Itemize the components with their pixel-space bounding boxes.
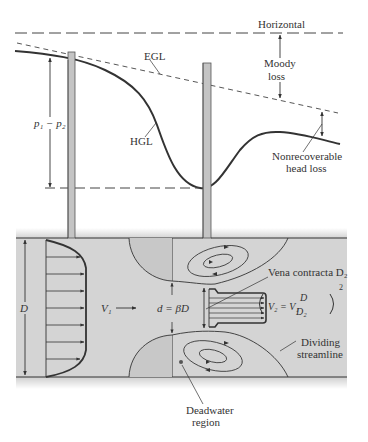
orifice-diagram bbox=[0, 0, 368, 442]
hgl-label: HGL bbox=[130, 135, 153, 147]
v2-equation-label: V₂ = V₁ bbox=[268, 301, 299, 313]
vena-contracta-label: Vena contracta D₂ bbox=[268, 266, 348, 278]
upstream-pressure-tap bbox=[68, 52, 75, 238]
deadwater-label-1: Deadwater bbox=[186, 404, 234, 416]
downstream-pressure-tap bbox=[203, 63, 211, 238]
eq-denominator: D₂ bbox=[296, 306, 307, 318]
deadwater-label-2: region bbox=[192, 416, 220, 428]
eq-exponent: 2 bbox=[339, 282, 343, 294]
pipe-bottom-shade bbox=[16, 377, 347, 389]
moody-loss-label-2: loss bbox=[268, 70, 285, 82]
deadwater-marker bbox=[179, 360, 183, 364]
dividing-streamline-label-2: streamline bbox=[297, 348, 343, 360]
moody-loss-label-1: Moody bbox=[264, 57, 296, 69]
dividing-streamline-label-1: Dividing bbox=[301, 336, 340, 348]
orifice-diameter-label: d = βD bbox=[157, 302, 189, 314]
nonrecoverable-label-1: Nonrecoverable bbox=[272, 150, 342, 162]
pressure-drop-label: p₁ − p₂ bbox=[34, 117, 66, 129]
horizontal-label: Horizontal bbox=[258, 18, 305, 30]
pipe-top-shade bbox=[16, 228, 347, 239]
eq-numerator: D bbox=[300, 292, 307, 304]
egl-line bbox=[17, 43, 338, 113]
egl-label: EGL bbox=[144, 50, 165, 62]
nonrecoverable-label-2: head loss bbox=[286, 162, 327, 174]
v1-label: V₁ bbox=[101, 302, 112, 314]
pipe-diameter-label: D bbox=[20, 302, 28, 314]
